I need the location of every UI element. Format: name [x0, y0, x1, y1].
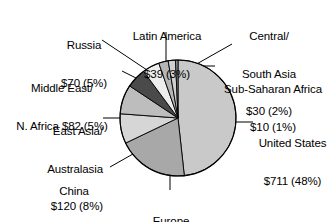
label-latin-america-line1: Latin America — [116, 30, 218, 43]
label-middle-east-line2: N. Africa $82 (5%) — [2, 120, 122, 133]
label-latin-america: Latin America $39 (3%) — [116, 5, 218, 105]
label-united-states-line2: $711 (48%) — [251, 175, 334, 188]
label-east-asia-line3: $120 (8%) — [8, 200, 103, 213]
pie-chart-figure: Russia $70 (5%) Latin America $39 (3%) C… — [0, 0, 334, 222]
label-europe: Europe $289 (20%) — [124, 190, 218, 222]
label-united-states: United States $711 (48%) — [251, 112, 334, 212]
label-united-states-line1: United States — [251, 137, 334, 150]
label-sub-saharan-africa-line1: Sub-Saharan Africa — [213, 83, 333, 96]
label-latin-america-line2: $39 (3%) — [116, 68, 218, 81]
label-central-south-asia-line1: Central/ — [222, 30, 316, 43]
label-russia-line1: Russia — [46, 39, 122, 52]
label-europe-line1: Europe — [124, 215, 218, 222]
label-middle-east-line1: Middle East/ — [2, 82, 122, 95]
label-middle-east-north-africa: Middle East/ N. Africa $82 (5%) — [2, 57, 122, 157]
label-east-asia-line2: Australasia — [8, 163, 103, 176]
